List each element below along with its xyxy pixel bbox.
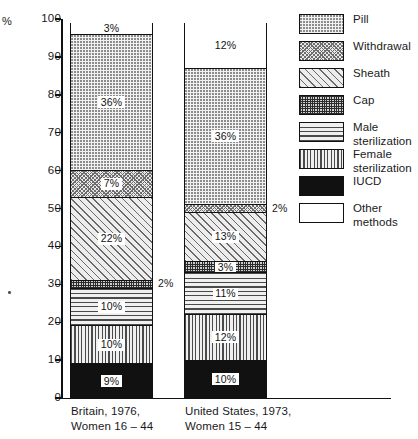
bar-segment-sheath[interactable]: 13% xyxy=(185,213,266,262)
legend-item-sheath[interactable]: Sheath xyxy=(299,67,418,94)
bar-segment-sheath[interactable]: 22% xyxy=(71,198,152,281)
bar-segment-pill[interactable]: 36% xyxy=(185,69,266,205)
y-axis-tick-label: 90 xyxy=(27,51,61,63)
bar-segment-value-label: 10% xyxy=(212,373,238,385)
legend-item-label: IUCD xyxy=(353,175,382,189)
x-axis-label-line-2: Women 15 – 44 xyxy=(185,419,291,434)
stacked-bar-chart: % 0102030405060708090100 9%10%10%22%7%36… xyxy=(0,0,418,439)
legend-item-label: Withdrawal xyxy=(353,40,411,54)
bar-segment-value-label: 22% xyxy=(98,233,124,245)
legend-swatch-cap xyxy=(299,95,344,115)
legend-item-label: Male sterilization xyxy=(353,121,412,148)
bar-segment-value-label: 7% xyxy=(101,178,121,190)
legend-swatch-iucd xyxy=(299,176,344,196)
bar-segment-male-sterilization[interactable]: 10% xyxy=(71,289,152,327)
legend-swatch-other-methods xyxy=(299,203,344,223)
bar-segment-value-label: 36% xyxy=(98,96,124,108)
bar-segment-value-label: 9% xyxy=(101,375,121,387)
legend: PillWithdrawalSheathCapMale sterilizatio… xyxy=(299,13,418,229)
y-axis-tick-label: 60 xyxy=(27,165,61,177)
bar-segment-pill[interactable]: 36% xyxy=(71,35,152,171)
y-axis-tick-label: 80 xyxy=(27,89,61,101)
y-axis-tick-label: 50 xyxy=(27,203,61,215)
bar-segment-female-sterilization[interactable]: 10% xyxy=(71,326,152,364)
bar-segment-value-label: 3% xyxy=(101,23,121,34)
bar-segment-female-sterilization[interactable]: 12% xyxy=(185,315,266,360)
legend-item-male-sterilization[interactable]: Male sterilization xyxy=(299,121,418,148)
legend-swatch-female-sterilization xyxy=(299,149,344,169)
y-axis-tick-label: 100 xyxy=(27,13,61,25)
bar-segment-iucd[interactable]: 10% xyxy=(185,361,266,399)
bar-segment-value-label: 10% xyxy=(98,301,124,313)
united-states-bar[interactable]: 10%12%11%3%13%36%12% xyxy=(184,23,267,398)
y-axis-tick-label: 20 xyxy=(27,316,61,328)
bar-segment-callout-withdrawal: 2% xyxy=(272,203,287,214)
legend-item-label: Cap xyxy=(353,94,374,108)
bar-segment-value-label: 3% xyxy=(215,262,235,273)
legend-item-label: Female sterilization xyxy=(353,148,412,175)
bar-segment-value-label: 11% xyxy=(213,288,239,300)
bar-segment-cap[interactable]: 3% xyxy=(185,262,266,273)
bar-segment-withdrawal[interactable] xyxy=(185,205,266,213)
x-axis-label-line-1: Britain, 1976, xyxy=(71,404,153,419)
x-axis-label-line-1: United States, 1973, xyxy=(185,404,291,419)
bar-segment-value-label: 13% xyxy=(212,231,238,243)
legend-item-other-methods[interactable]: Other methods xyxy=(299,202,418,229)
legend-item-label: Pill xyxy=(353,13,369,27)
bar-segment-iucd[interactable]: 9% xyxy=(71,364,152,398)
legend-item-withdrawal[interactable]: Withdrawal xyxy=(299,40,418,67)
bar-segment-value-label: 12% xyxy=(212,331,238,343)
y-axis-line xyxy=(61,19,63,399)
britain-bar-x-axis-label: Britain, 1976,Women 16 – 44 xyxy=(71,404,153,434)
legend-swatch-male-sterilization xyxy=(299,122,344,142)
legend-item-female-sterilization[interactable]: Female sterilization xyxy=(299,148,418,175)
legend-swatch-withdrawal xyxy=(299,41,344,61)
bar-segment-withdrawal[interactable]: 7% xyxy=(71,171,152,198)
page-speck-artifact xyxy=(8,291,11,294)
legend-item-cap[interactable]: Cap xyxy=(299,94,418,121)
legend-swatch-pill xyxy=(299,14,344,34)
y-axis-unit-label: % xyxy=(2,15,12,27)
bar-segment-value-label: 10% xyxy=(98,339,124,351)
y-axis-tick-label: 30 xyxy=(27,278,61,290)
legend-item-label: Other methods xyxy=(353,202,398,229)
bar-segment-male-sterilization[interactable]: 11% xyxy=(185,273,266,315)
y-axis-tick-label: 10 xyxy=(27,354,61,366)
bar-segment-value-label: 12% xyxy=(212,39,238,51)
bar-segment-cap[interactable] xyxy=(71,281,152,289)
britain-bar[interactable]: 9%10%10%22%7%36%3% xyxy=(70,23,153,398)
y-axis-tick-label: 0 xyxy=(27,392,61,404)
bar-segment-value-label: 36% xyxy=(212,130,238,142)
legend-item-label: Sheath xyxy=(353,67,390,81)
bar-segment-other-methods[interactable]: 3% xyxy=(71,23,152,34)
legend-item-pill[interactable]: Pill xyxy=(299,13,418,40)
united-states-bar-x-axis-label: United States, 1973,Women 15 – 44 xyxy=(185,404,291,434)
legend-swatch-sheath xyxy=(299,68,344,88)
legend-item-iucd[interactable]: IUCD xyxy=(299,175,418,202)
x-axis-label-line-2: Women 16 – 44 xyxy=(71,419,153,434)
y-axis-tick-label: 40 xyxy=(27,240,61,252)
y-axis-tick-label: 70 xyxy=(27,127,61,139)
bar-segment-other-methods[interactable]: 12% xyxy=(185,23,266,68)
bar-segment-callout-cap: 2% xyxy=(158,278,173,289)
